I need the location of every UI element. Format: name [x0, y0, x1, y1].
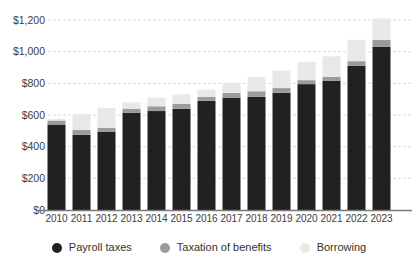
y-axis-tick-label: $800	[22, 77, 46, 89]
bar-segment-2023-taxation-of-benefits	[373, 40, 391, 47]
x-axis-tick-label: 2020	[295, 213, 318, 224]
bar-segment-2015-payroll-taxes	[173, 109, 191, 210]
bar-segment-2013-taxation-of-benefits	[123, 109, 141, 113]
legend-label-taxation-of-benefits: Taxation of benefits	[177, 242, 272, 253]
bar-segment-2017-payroll-taxes	[223, 98, 241, 210]
bar-segment-2021-taxation-of-benefits	[323, 77, 341, 81]
bar-segment-2010-taxation-of-benefits	[48, 121, 66, 125]
payroll-taxes-dot-icon	[52, 243, 62, 253]
bar-segment-2011-payroll-taxes	[73, 135, 91, 210]
bar-segment-2023-payroll-taxes	[373, 47, 391, 210]
bar-segment-2021-borrowing	[323, 56, 341, 77]
y-axis-tick-label: $600	[22, 109, 46, 121]
bar-segment-2014-payroll-taxes	[148, 111, 166, 210]
bar-segment-2015-borrowing	[173, 94, 191, 104]
bar-segment-2018-borrowing	[248, 77, 266, 91]
bar-segment-2023-borrowing	[373, 18, 391, 39]
x-axis-tick-label: 2021	[320, 213, 343, 224]
bar-segment-2018-payroll-taxes	[248, 97, 266, 210]
legend-label-borrowing: Borrowing	[317, 242, 367, 253]
y-axis-tick-label: $1,000	[13, 45, 45, 57]
bar-segment-2019-payroll-taxes	[273, 93, 291, 210]
bar-segment-2011-borrowing	[73, 114, 91, 130]
borrowing-dot-icon	[300, 243, 310, 253]
bar-segment-2022-payroll-taxes	[348, 66, 366, 210]
y-axis-tick-label: $0	[33, 204, 45, 216]
y-axis-tick-label: $200	[22, 172, 46, 184]
x-axis-tick-label: 2014	[145, 213, 168, 224]
x-axis-tick-label: 2022	[345, 213, 368, 224]
stacked-bar-chart: $0$200$400$600$800$1,000$1,2002010201120…	[0, 0, 418, 232]
bar-segment-2013-payroll-taxes	[123, 113, 141, 210]
bar-segment-2016-payroll-taxes	[198, 101, 216, 210]
bar-segment-2014-taxation-of-benefits	[148, 106, 166, 111]
bar-segment-2017-taxation-of-benefits	[223, 93, 241, 98]
bar-segment-2021-payroll-taxes	[323, 81, 341, 210]
bar-segment-2012-payroll-taxes	[98, 132, 116, 210]
x-axis-tick-label: 2016	[195, 213, 218, 224]
y-axis-tick-label: $1,200	[13, 14, 45, 26]
legend-item-borrowing: Borrowing	[300, 242, 367, 253]
bar-segment-2020-taxation-of-benefits	[298, 80, 316, 84]
y-axis-tick-label: $400	[22, 140, 46, 152]
bar-segment-2017-borrowing	[223, 83, 241, 93]
bar-segment-2020-borrowing	[298, 62, 316, 80]
x-axis-tick-label: 2012	[95, 213, 118, 224]
legend-label-payroll-taxes: Payroll taxes	[69, 242, 132, 253]
x-axis-tick-label: 2015	[170, 213, 193, 224]
chart-canvas: $0$200$400$600$800$1,000$1,2002010201120…	[0, 0, 418, 259]
chart-legend: Payroll taxes Taxation of benefits Borro…	[0, 242, 418, 253]
x-axis-tick-label: 2019	[270, 213, 293, 224]
bar-segment-2014-borrowing	[148, 98, 166, 107]
bar-segment-2011-taxation-of-benefits	[73, 130, 91, 135]
x-axis-tick-label: 2023	[370, 213, 393, 224]
bar-segment-2019-borrowing	[273, 71, 291, 88]
bar-segment-2010-payroll-taxes	[48, 125, 66, 211]
x-axis-tick-label: 2017	[220, 213, 243, 224]
legend-item-payroll-taxes: Payroll taxes	[52, 242, 132, 253]
bar-segment-2013-borrowing	[123, 102, 141, 108]
x-axis-tick-label: 2018	[245, 213, 268, 224]
bar-segment-2022-taxation-of-benefits	[348, 61, 366, 66]
bar-segment-2012-taxation-of-benefits	[98, 128, 116, 132]
x-axis-tick-label: 2013	[120, 213, 143, 224]
bar-segment-2016-taxation-of-benefits	[198, 97, 216, 101]
bar-segment-2019-taxation-of-benefits	[273, 88, 291, 93]
bar-segment-2012-borrowing	[98, 108, 116, 128]
bar-segment-2010-borrowing	[48, 119, 66, 121]
taxation-of-benefits-dot-icon	[160, 243, 170, 253]
bar-segment-2022-borrowing	[348, 40, 366, 61]
bar-segment-2018-taxation-of-benefits	[248, 91, 266, 97]
bar-segment-2020-payroll-taxes	[298, 84, 316, 210]
bar-segment-2015-taxation-of-benefits	[173, 104, 191, 109]
legend-item-taxation-of-benefits: Taxation of benefits	[160, 242, 272, 253]
x-axis-tick-label: 2011	[71, 213, 93, 224]
x-axis-tick-label: 2010	[45, 213, 68, 224]
bar-segment-2016-borrowing	[198, 90, 216, 97]
